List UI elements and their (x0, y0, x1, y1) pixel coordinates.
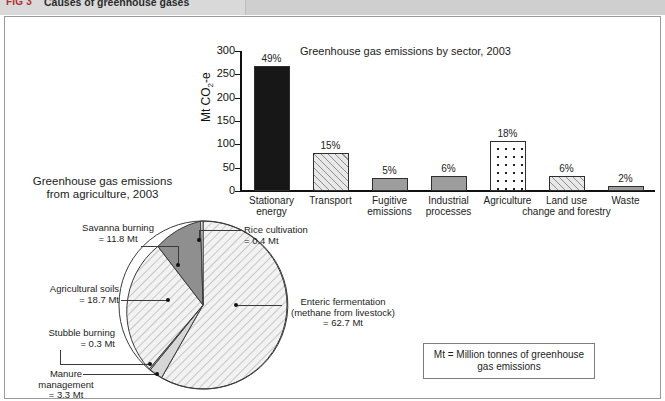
y-tick-mark-250 (235, 74, 240, 75)
figure-header-band: FIG 3 Causes of greenhouse gases (0, 0, 665, 15)
pie-label-enteric-fermentation-line-1: Enteric fermentation (277, 297, 409, 308)
y-tick-label-250: 250 (201, 68, 235, 79)
leader-stubble-burning-h (60, 364, 150, 365)
bar-slot: 15% (301, 51, 360, 191)
figure-caption: Causes of greenhouse gases (44, 0, 189, 8)
y-tick-label-0: 0 (201, 185, 235, 196)
leader-rice-cultivation-h (199, 230, 243, 231)
pie-point-agricultural-soils (166, 298, 170, 302)
bar-value-label: 49% (261, 53, 281, 64)
pie-point-rice-cultivation (197, 238, 201, 242)
y-tick-mark-200 (235, 98, 240, 99)
bar-slot: 6% (537, 51, 596, 191)
pie-label-savanna-burning: Savanna burning = 11.8 Mt (53, 223, 183, 244)
bar-slot: 5% (360, 51, 419, 191)
pie-label-savanna-burning-line-2: = 11.8 Mt (53, 234, 183, 245)
x-axis-label-line: Waste (591, 195, 660, 206)
bar-value-label: 6% (559, 163, 573, 174)
x-axis-label-line: change and forestry (512, 206, 622, 217)
y-tick-mark-300 (235, 51, 240, 52)
y-tick-mark-0 (235, 191, 240, 192)
bar-value-label: 2% (618, 173, 632, 184)
pie-label-savanna-burning-line-1: Savanna burning (53, 223, 183, 234)
bar-land-use-change-and-forestry[interactable] (549, 176, 585, 191)
bar-waste[interactable] (608, 186, 644, 191)
y-tick-mark-150 (235, 121, 240, 122)
leader-stubble-burning-v (60, 350, 61, 365)
bar-slot: 18% (478, 51, 537, 191)
figure-number: FIG 3 (6, 0, 32, 7)
y-tick-mark-50 (235, 168, 240, 169)
bar-slot: 2% (596, 51, 655, 191)
leader-agricultural-soils-h (121, 300, 169, 301)
bar-fugitive-emissions[interactable] (372, 178, 408, 191)
pie-label-stubble-burning-line-1: Stubble burning (7, 328, 115, 339)
x-axis-label-line: energy (237, 206, 306, 217)
pie-point-stubble-burning (148, 362, 152, 366)
pie-chart-title-line-2: from agriculture, 2003 (15, 188, 190, 201)
bar-chart-y-ticks: 300250200150100500 (201, 51, 235, 191)
bar-transport[interactable] (313, 153, 349, 191)
bar-slot: 6% (419, 51, 478, 191)
y-tick-label-50: 50 (201, 162, 235, 173)
leader-enteric-fermentation-h (237, 305, 282, 306)
pie-point-enteric-fermentation (234, 303, 238, 307)
leader-savanna-burning-h (141, 246, 179, 247)
y-tick-label-200: 200 (201, 92, 235, 103)
pie-point-savanna-burning (176, 263, 180, 267)
pie-label-rice-cultivation-line-2: = 0.4 Mt (244, 236, 374, 247)
pie-label-rice-cultivation: Rice cultivation = 0.4 Mt (244, 225, 374, 246)
y-tick-label-150: 150 (201, 115, 235, 126)
unit-note-box: Mt = Million tonnes of greenhouse gas em… (423, 343, 595, 379)
pie-label-stubble-burning: Stubble burning = 0.3 Mt (7, 328, 115, 349)
bar-industrial-processes[interactable] (431, 176, 467, 191)
pie-point-manure-management (155, 372, 159, 376)
x-axis-label-line: processes (414, 206, 483, 217)
leader-manure-management-h (83, 374, 157, 375)
pie-label-agricultural-soils-line-1: Agricultural soils (11, 284, 119, 295)
bar-value-label: 18% (497, 128, 517, 139)
bar-value-label: 15% (320, 140, 340, 151)
bar-chart-plot-area: 49%15%5%6%18%6%2% (242, 51, 655, 191)
pie-label-agricultural-soils: Agricultural soils = 18.7 Mt (11, 284, 119, 305)
bar-chart: Greenhouse gas emissions by sector, 2003… (195, 23, 661, 213)
bar-agriculture[interactable] (490, 141, 526, 191)
bar-slot: 49% (242, 51, 301, 191)
pie-chart-title: Greenhouse gas emissions from agricultur… (15, 175, 190, 201)
pie-label-manure-management-line-3: = 3.3 Mt (11, 390, 121, 399)
pie-label-stubble-burning-line-2: = 0.3 Mt (7, 339, 115, 350)
bar-stationary-energy[interactable] (254, 66, 290, 191)
pie-label-rice-cultivation-line-1: Rice cultivation (244, 225, 374, 236)
y-tick-label-300: 300 (201, 45, 235, 56)
bar-value-label: 6% (441, 163, 455, 174)
figure-body: Greenhouse gas emissions by sector, 2003… (4, 16, 661, 399)
y-tick-mark-100 (235, 144, 240, 145)
pie-chart-title-line-1: Greenhouse gas emissions (15, 175, 190, 188)
pie-label-enteric-fermentation-line-3: = 62.7 Mt (277, 318, 409, 329)
figure-page: FIG 3 Causes of greenhouse gases Greenho… (0, 0, 665, 401)
pie-label-enteric-fermentation: Enteric fermentation (methane from lives… (277, 297, 409, 329)
y-tick-label-100: 100 (201, 138, 235, 149)
pie-label-agricultural-soils-line-2: = 18.7 Mt (11, 295, 119, 306)
bar-value-label: 5% (382, 165, 396, 176)
x-axis-label-waste: Waste (591, 195, 660, 206)
